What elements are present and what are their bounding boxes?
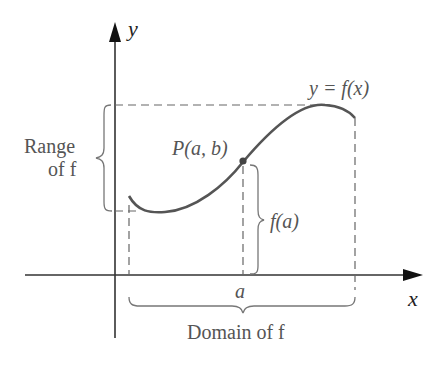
x-axis-label: x [408,288,418,310]
diagram-canvas [0,0,442,370]
y-axis-label: y [128,18,138,40]
range-brace [96,105,112,211]
x-axis-arrow-icon [403,269,423,281]
point-p [239,157,246,164]
range-label-line1: Range [24,136,75,156]
x-tick-label-a: a [235,281,245,301]
function-label: y = f(x) [309,78,369,98]
function-diagram: y x y = f(x) P(a, b) f(a) a Range of f D… [0,0,442,370]
y-axis-arrow-icon [109,22,121,42]
value-brace [250,165,264,274]
point-label: P(a, b) [172,138,228,158]
domain-label: Domain of f [187,322,285,342]
range-label-line2: of f [48,159,76,179]
value-label: f(a) [270,211,299,231]
